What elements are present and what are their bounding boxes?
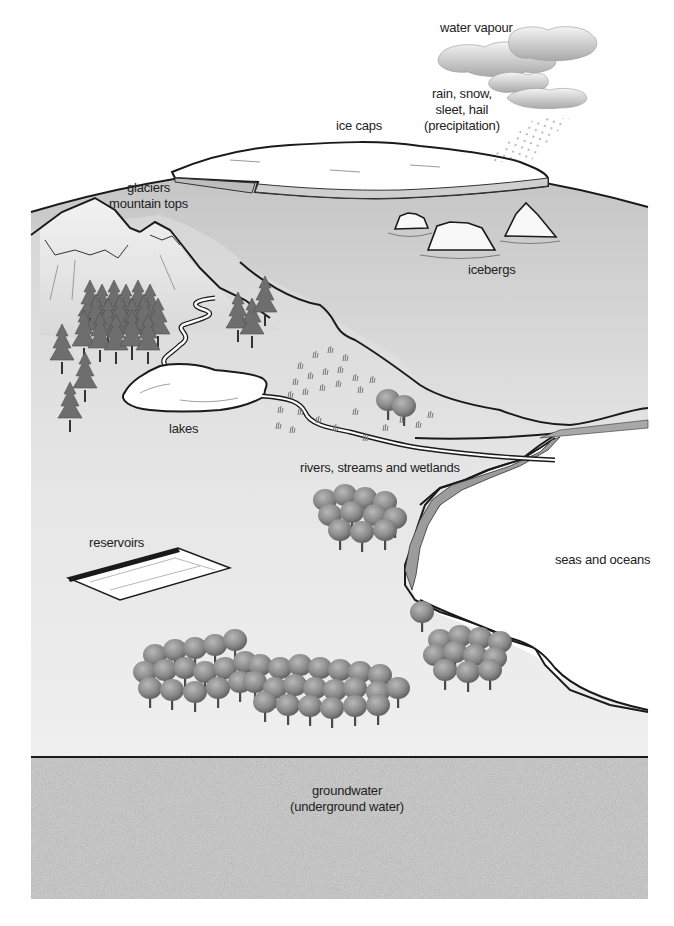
label-groundwater: groundwater (underground water) [290, 783, 404, 815]
label-lakes: lakes [169, 421, 198, 437]
label-precipitation: rain, snow, sleet, hail (precipitation) [424, 86, 500, 134]
label-rivers: rivers, streams and wetlands [300, 460, 460, 476]
groundwater-layer [31, 757, 648, 899]
glaciers-line-2: mountain tops [109, 196, 188, 212]
groundwater-line-1: groundwater [290, 783, 404, 799]
precipitation-line-2: sleet, hail [424, 102, 500, 118]
label-seas-and-oceans: seas and oceans [555, 552, 650, 568]
precipitation-line-3: (precipitation) [424, 118, 500, 134]
label-water-vapour: water vapour [440, 20, 513, 36]
label-glaciers: glaciers mountain tops [109, 180, 188, 212]
ice-cap [172, 142, 548, 198]
groundwater-line-2: (underground water) [290, 799, 404, 815]
label-icebergs: icebergs [468, 262, 516, 278]
precipitation-line-1: rain, snow, [424, 86, 500, 102]
label-ice-caps: ice caps [336, 118, 382, 134]
glaciers-line-1: glaciers [109, 180, 188, 196]
label-reservoirs: reservoirs [89, 535, 144, 551]
